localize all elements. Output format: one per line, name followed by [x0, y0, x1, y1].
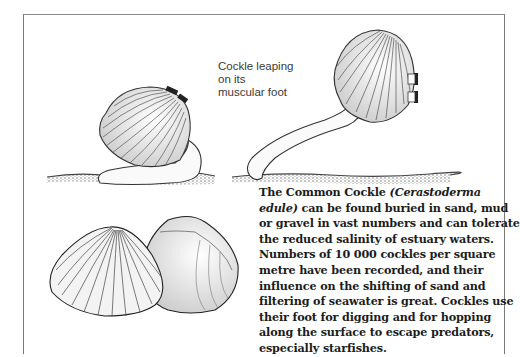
caption-line: especially starfishes. [259, 341, 509, 357]
species-name: (Cerastoderma [390, 185, 481, 199]
caption-line: their foot for digging and for hopping [259, 310, 509, 326]
caption-line: The Common Cockle (Cerastoderma [259, 185, 509, 201]
caption-line: influence on the shifting of sand and [259, 279, 509, 295]
caption-line: edule) can be found buried in sand, mud [259, 201, 509, 217]
cockle-crawling-illustration [98, 86, 201, 185]
caption-line: the reduced salinity of estuary waters. [259, 232, 509, 248]
caption-text: can be found buried in sand, mud [298, 201, 508, 215]
cockle-shells-illustration [50, 216, 238, 316]
caption-line: filtering of seawater is great. Cockles … [259, 294, 509, 310]
species-name: edule) [259, 201, 298, 215]
label-line: muscular foot [218, 86, 318, 99]
label-line: Cockle leaping [218, 60, 318, 73]
caption-text: The Common Cockle [259, 185, 390, 199]
illustration-label: Cockle leaping on its muscular foot [218, 60, 318, 99]
label-line: on its [218, 73, 318, 86]
cockle-leaping-illustration [247, 30, 418, 180]
caption-line: metre have been recorded, and their [259, 263, 509, 279]
sand-surface-right [232, 172, 461, 184]
figure-caption: The Common Cockle (Cerastoderma edule) c… [259, 185, 509, 357]
caption-line: along the surface to escape predators, [259, 325, 509, 341]
caption-line: Numbers of 10 000 cockles per square [259, 247, 509, 263]
caption-line: or gravel in vast numbers and can tolera… [259, 216, 509, 232]
